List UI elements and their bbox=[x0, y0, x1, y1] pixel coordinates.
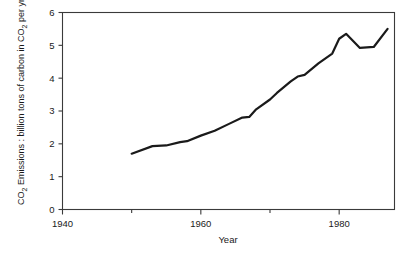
y-tick-label-5: 5 bbox=[49, 40, 54, 51]
x-tick-label-1980: 1980 bbox=[329, 218, 350, 229]
x-tick-label-1940: 1940 bbox=[52, 218, 73, 229]
chart-container: 0123456 194019601980 Year CO2 Emissions … bbox=[0, 0, 414, 255]
y-tick-label-0: 0 bbox=[49, 204, 54, 215]
co2-emissions-line-chart: 0123456 194019601980 Year CO2 Emissions … bbox=[0, 0, 414, 255]
y-axis-title: CO2 Emissions : billion tons of carbon i… bbox=[16, 0, 28, 205]
y-tick-label-6: 6 bbox=[49, 7, 54, 18]
y-tick-label-1: 1 bbox=[49, 171, 54, 182]
y-tick-label-2: 2 bbox=[49, 138, 54, 149]
y-tick-label-3: 3 bbox=[49, 105, 54, 116]
x-tick-label-1960: 1960 bbox=[190, 218, 211, 229]
x-axis-title: Year bbox=[218, 234, 237, 245]
y-tick-label-4: 4 bbox=[49, 73, 54, 84]
